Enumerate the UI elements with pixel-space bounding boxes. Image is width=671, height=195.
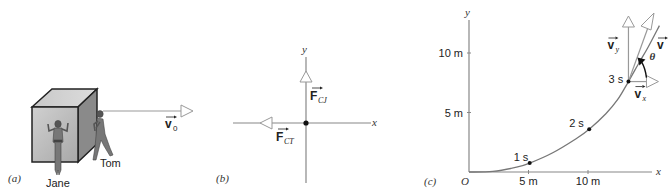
b-y-axis-label: y (301, 43, 307, 55)
svg-text:F: F (276, 130, 283, 144)
time-point-label: 1 s (514, 151, 529, 163)
force-ct-arrowhead (260, 117, 272, 129)
svg-text:v: v (607, 38, 614, 52)
c-origin-label: O (461, 175, 469, 187)
panel-c: x y O (c) 5 m10 m 5 m10 m θvyvxv 1 s2 s3… (424, 6, 668, 188)
jane-label: Jane (46, 177, 70, 189)
svg-text:0: 0 (173, 124, 178, 133)
b-origin-dot (303, 120, 308, 125)
b-x-axis-label: x (371, 116, 377, 128)
c-y-axis-label: y (464, 6, 470, 18)
vx-label: vx (634, 85, 646, 103)
time-point-label: 2 s (569, 117, 584, 129)
c-x-axis-label: x (655, 165, 661, 177)
svg-text:v: v (634, 87, 641, 101)
theta-arc (641, 62, 646, 78)
tom-label: Tom (100, 157, 121, 169)
x-tick-label: 10 m (576, 175, 600, 187)
svg-text:F: F (310, 89, 317, 103)
y-tick-label: 10 m (439, 47, 463, 59)
theta-label: θ (649, 50, 655, 62)
svg-text:x: x (641, 94, 646, 103)
y-tick-label: 5 m (445, 107, 463, 119)
velocity-arrowhead (181, 105, 193, 117)
svg-text:v: v (657, 38, 664, 52)
vy-label: vy (607, 37, 619, 55)
time-point-label: 3 s (608, 73, 623, 85)
time-point (626, 80, 630, 84)
v-label: v (657, 37, 668, 53)
trajectory-curve (469, 26, 659, 172)
force-cj-label: F CJ (310, 87, 327, 106)
panel-b-label: (b) (216, 172, 229, 185)
force-cj-arrowhead (300, 71, 312, 82)
velocity-label: v 0 (165, 116, 178, 134)
svg-text:v: v (165, 117, 172, 131)
svg-text:CJ: CJ (318, 96, 327, 105)
v-line (628, 22, 650, 82)
time-point (587, 127, 591, 131)
panel-b: x y F CJ F CT (b) (216, 43, 377, 185)
x-tick-label: 5 m (519, 175, 537, 187)
panel-c-label: (c) (424, 175, 437, 188)
panel-a: v 0 Tom Jane (a) (8, 89, 193, 189)
vy-arrowhead (622, 16, 634, 27)
figure: v 0 Tom Jane (a) x y F CJ F CT (b) (0, 0, 671, 195)
force-ct-label: F CT (276, 128, 294, 147)
svg-text:y: y (614, 45, 619, 54)
v-arrowhead (641, 13, 654, 30)
panel-a-label: (a) (8, 172, 21, 185)
svg-text:CT: CT (284, 137, 294, 146)
crate (32, 89, 97, 162)
vx-arrowhead (646, 76, 658, 88)
